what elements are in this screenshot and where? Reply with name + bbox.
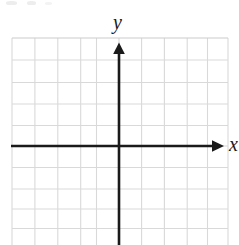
coordinate-grid-figure: y x	[0, 0, 239, 245]
x-axis-label: x	[229, 134, 238, 154]
x-axis-arrowhead	[212, 140, 224, 152]
y-axis-arrowhead	[113, 43, 125, 55]
axes	[11, 43, 224, 245]
y-axis-label: y	[113, 12, 122, 32]
coordinate-plane-svg	[0, 0, 239, 245]
